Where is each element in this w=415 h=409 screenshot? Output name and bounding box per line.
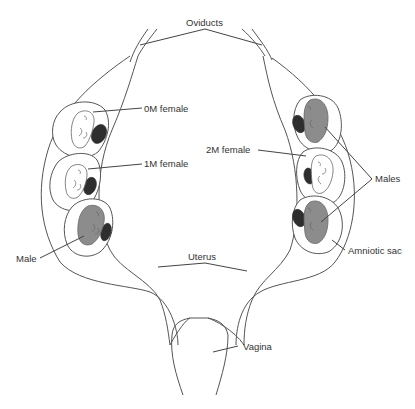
- males-right-label: Males: [375, 173, 401, 184]
- left-sac-0m-female: [53, 102, 110, 158]
- vagina-left-wall: [172, 318, 190, 395]
- oviducts-leader: [140, 29, 262, 45]
- female-0m-label: 0M female: [144, 103, 188, 114]
- right-sac-male-bottom: [290, 196, 342, 254]
- uterus-leader: [158, 263, 247, 271]
- right-sac-male-top: [290, 95, 341, 152]
- vagina-leader: [213, 346, 238, 352]
- female-1m-label: 1M female: [144, 158, 188, 169]
- female-2m-label: 2M female: [206, 144, 250, 155]
- right-horn-inner: [244, 56, 297, 345]
- vagina-label: Vagina: [243, 341, 273, 352]
- amniotic-sac-label: Amniotic sac: [348, 245, 402, 256]
- right-horn-outer: [236, 58, 354, 345]
- left-sac-male: [64, 199, 113, 256]
- vagina-right-wall: [208, 318, 228, 395]
- male-left-label: Male: [16, 253, 37, 264]
- right-sac-2m-female: [297, 148, 345, 204]
- left-oviduct-inner: [138, 29, 157, 56]
- uterus-label: Uterus: [188, 251, 216, 262]
- left-horn-inner: [99, 56, 170, 345]
- oviducts-label: Oviducts: [186, 17, 223, 28]
- uterus-diagram: Oviducts Vagina Uterus: [0, 0, 415, 409]
- female-2m-leader: [258, 150, 306, 156]
- left-oviduct-outer: [130, 29, 148, 62]
- male-fetus: [304, 201, 328, 244]
